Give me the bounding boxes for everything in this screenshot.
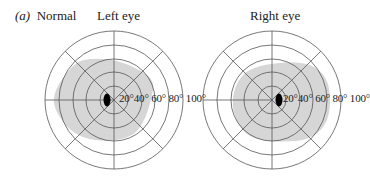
right-eye-blind-spot bbox=[276, 94, 283, 107]
left-eye-blind-spot bbox=[104, 94, 111, 107]
right-eye-ring-labels: 20°40° 60° 80° 100° bbox=[283, 92, 370, 104]
left-eye-ring-labels: 20°40° 60° 80° 100° bbox=[119, 92, 206, 104]
